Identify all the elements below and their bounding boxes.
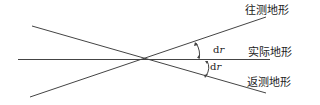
lower-angle-label: dr xyxy=(210,62,221,72)
forward-terrain-label: 往测地形 xyxy=(245,5,289,16)
upper-angle-label: dr xyxy=(213,45,224,55)
lower-angle-r: r xyxy=(216,61,221,72)
upper-angle-r: r xyxy=(219,44,224,55)
lower-angle-arc xyxy=(206,61,209,76)
actual-terrain-label: 实际地形 xyxy=(248,47,292,58)
backward-terrain-label: 返测地形 xyxy=(247,77,291,88)
forward-terrain-line xyxy=(30,17,266,97)
